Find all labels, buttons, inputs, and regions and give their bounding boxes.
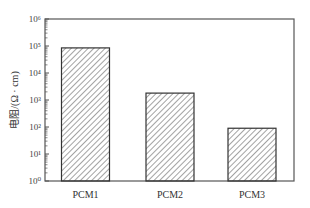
y-tick-label: 10⁶ (29, 14, 41, 24)
y-tick-label: 10⁰ (28, 176, 41, 186)
y-tick-label: 10² (29, 122, 41, 132)
y-tick-label: 10³ (29, 95, 41, 105)
y-axis-ticks: 10⁰10¹10²10³10⁴10⁵10⁶ (28, 14, 49, 186)
bar-pcm1 (62, 48, 110, 181)
x-axis-labels: PCM1PCM2PCM3 (72, 189, 265, 200)
y-tick-label: 10¹ (29, 149, 41, 159)
bar-pcm2 (146, 93, 194, 181)
x-tick-label: PCM3 (239, 189, 265, 200)
bar-pcm3 (228, 128, 276, 181)
y-tick-label: 10⁴ (29, 68, 41, 78)
resistivity-bar-chart: 10⁰10¹10²10³10⁴10⁵10⁶ PCM1PCM2PCM3 电阻/(Ω… (0, 0, 310, 208)
y-axis-title: 电阻/(Ω · cm) (8, 71, 21, 128)
y-tick-label: 10⁵ (29, 41, 41, 51)
bars (62, 48, 277, 181)
x-tick-label: PCM2 (157, 189, 183, 200)
x-tick-label: PCM1 (72, 189, 98, 200)
